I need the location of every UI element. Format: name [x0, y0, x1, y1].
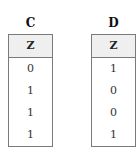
- column-header-z: Z: [9, 35, 52, 58]
- table-grid: Z 1 0 0 1: [91, 34, 136, 147]
- table-grid: Z 0 1 1 1: [8, 34, 53, 147]
- truth-table-d: D Z 1 0 0 1: [91, 14, 136, 147]
- table-row: 1: [9, 124, 52, 146]
- table-title: C: [8, 14, 53, 34]
- table-title: D: [91, 14, 136, 34]
- table-row: 1: [9, 102, 52, 124]
- table-row: 0: [92, 80, 135, 102]
- table-row: 1: [9, 80, 52, 102]
- column-header-z: Z: [92, 35, 135, 58]
- table-row: 0: [9, 58, 52, 80]
- table-row: 1: [92, 58, 135, 80]
- truth-table-c: C Z 0 1 1 1: [8, 14, 53, 147]
- table-row: 0: [92, 102, 135, 124]
- table-row: 1: [92, 124, 135, 146]
